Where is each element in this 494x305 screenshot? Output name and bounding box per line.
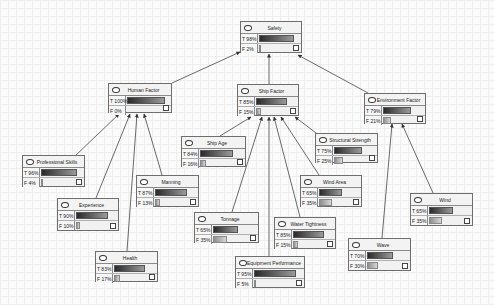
node-false-row: F 17% [96,274,157,283]
node-header[interactable]: Human Factor [109,84,171,96]
node-header[interactable]: Water Tightness [275,218,335,230]
node-state-ellipse-icon [241,88,249,94]
node-true-bar [319,189,342,196]
node-true-label: T 85% [275,230,292,239]
node-false-bar [293,241,298,248]
node-header[interactable]: Ship Factor [238,85,298,97]
node-true-row: T 85% [275,230,335,240]
node-checkbox-icon[interactable] [163,105,169,111]
node-title: Experience [69,202,118,208]
node-checkbox-icon[interactable] [369,155,375,161]
node-checkbox-icon[interactable] [296,280,302,286]
node-checkbox-icon[interactable] [190,199,196,205]
node-header[interactable]: Experience [58,199,118,211]
node-true-bar-track [293,231,329,238]
node-true-bar [41,169,77,176]
node-true-bar [429,207,453,214]
node-true-bar-track [319,189,355,196]
node-header[interactable]: Structural Strength [316,134,377,146]
node-true-bar [259,35,294,42]
node-header[interactable]: Wind [411,194,472,206]
node-state-ellipse-icon [239,260,247,266]
node-checkbox-icon[interactable] [110,223,116,229]
node-wave[interactable]: Wave T 70% F 30% [348,238,411,271]
node-state-ellipse-icon [414,197,422,203]
node-true-bar [200,150,233,157]
node-environment-factor[interactable]: Environment Factor T 79% F 21% [364,93,426,124]
node-false-row: F 35% [301,198,361,207]
node-checkbox-icon[interactable] [149,274,155,280]
node-true-label: T 65% [301,188,318,197]
node-header[interactable]: Professional Skills [23,156,84,168]
node-false-bar [334,157,343,164]
node-header[interactable]: Equipment Performance [236,257,304,269]
node-title: Ship Age [193,140,245,146]
node-title: Health [107,255,157,261]
node-false-row: F 35% [195,235,258,244]
node-header[interactable]: Health [96,252,157,264]
node-header[interactable]: Safety [241,22,301,34]
node-true-row: T 65% [411,206,472,216]
node-checkbox-icon[interactable] [76,179,82,185]
node-true-row: T 75% [316,146,377,156]
node-title: Water Tightness [286,221,335,227]
node-false-bar-track [254,280,298,287]
node-title: Structural Strength [327,137,377,143]
edge-wave-to-environment_factor [382,124,392,238]
node-true-bar-track [114,265,151,272]
node-ship-factor[interactable]: Ship Factor T 85% F 15% [237,84,299,116]
node-checkbox-icon[interactable] [464,218,470,224]
node-false-label: F 2% [241,44,258,53]
node-checkbox-icon[interactable] [417,116,423,122]
node-false-label: F 0% [109,106,126,115]
node-false-bar-track [127,107,165,114]
node-header[interactable]: Environment Factor [365,94,425,106]
node-header[interactable]: Ship Age [182,137,245,149]
node-state-ellipse-icon [368,97,376,103]
node-false-bar [259,45,261,52]
node-false-bar-track [383,117,419,124]
node-tonnage[interactable]: Tonnage T 65% F 35% [194,212,259,243]
node-checkbox-icon[interactable] [353,199,359,205]
node-false-row: F 30% [349,261,410,270]
node-header[interactable]: Wind Area [301,176,361,188]
node-true-row: T 96% [23,168,84,178]
node-false-bar-track [76,222,112,229]
node-header[interactable]: Manning [137,176,198,188]
node-state-ellipse-icon [244,25,252,31]
node-checkbox-icon[interactable] [290,108,296,114]
node-structural-strength[interactable]: Structural Strength T 75% F 25% [315,133,378,163]
node-false-bar-track [114,275,151,282]
node-title: Human Factor [120,87,171,93]
node-checkbox-icon[interactable] [250,235,256,241]
node-true-bar-track [429,207,466,214]
node-wind[interactable]: Wind T 65% F 35% [410,193,473,226]
node-false-label: F 13% [137,198,154,207]
node-state-ellipse-icon [61,202,69,208]
node-title: Wind [422,197,472,203]
node-checkbox-icon[interactable] [402,263,408,269]
node-false-row: F 25% [316,156,377,165]
node-true-label: T 84% [182,149,199,158]
node-checkbox-icon[interactable] [327,241,333,247]
node-water-tightness[interactable]: Water Tightness T 85% F 15% [274,217,336,249]
node-header[interactable]: Wave [349,239,410,251]
node-safety[interactable]: Safety T 98% F 2% [240,21,302,53]
node-true-row: T 70% [349,251,410,261]
node-checkbox-icon[interactable] [293,45,299,51]
node-state-ellipse-icon [352,242,360,248]
node-health[interactable]: Health T 83% F 17% [95,251,158,282]
node-wind-area[interactable]: Wind Area T 65% F 35% [300,175,362,207]
node-experience[interactable]: Experience T 90% F 10% [57,198,119,231]
node-true-row: T 65% [301,188,361,198]
node-human-factor[interactable]: Human Factor T 100% F 0% [108,83,172,113]
node-checkbox-icon[interactable] [237,159,243,165]
node-manning[interactable]: Manning T 87% F 13% [136,175,199,207]
node-professional-skills[interactable]: Professional Skills T 96% F 4% [22,155,85,187]
node-ship-age[interactable]: Ship Age T 84% F 16% [181,136,246,167]
node-equipment-performance[interactable]: Equipment Performance T 95% F 5% [235,256,305,288]
node-header[interactable]: Tonnage [195,213,258,225]
node-true-bar [256,98,287,105]
node-false-label: F 15% [275,240,292,249]
node-false-row: F 2% [241,44,301,53]
